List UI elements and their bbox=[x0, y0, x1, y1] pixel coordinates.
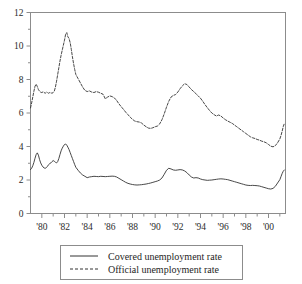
legend-label-covered: Covered unemployment rate bbox=[108, 251, 222, 262]
y-axis-tick-label: 6 bbox=[19, 108, 24, 118]
x-axis-tick-label: '00 bbox=[263, 222, 274, 232]
plot-area-border bbox=[31, 13, 286, 214]
y-axis-tick-label: 0 bbox=[19, 209, 24, 219]
x-axis-tick-label: '86 bbox=[104, 222, 115, 232]
y-axis-tick-label: 8 bbox=[19, 75, 24, 85]
x-axis-tick-label: '84 bbox=[82, 222, 93, 232]
x-axis-tick-label: '94 bbox=[195, 222, 206, 232]
y-axis-tick-label: 4 bbox=[19, 142, 24, 152]
x-axis-tick-labels: '80'82'84'86'88'90'92'94'96'98'00 bbox=[36, 222, 274, 232]
x-axis-tick-label: '80 bbox=[36, 222, 47, 232]
y-axis-tick-label: 12 bbox=[14, 8, 24, 18]
x-axis-ticks bbox=[42, 214, 280, 219]
x-axis-tick-label: '90 bbox=[150, 222, 161, 232]
legend: Covered unemployment rate Official unemp… bbox=[61, 246, 243, 280]
unemployment-rate-line-chart: 024681012 '80'82'84'86'88'90'92'94'96'98… bbox=[0, 0, 302, 284]
x-axis-tick-label: '98 bbox=[240, 222, 251, 232]
y-axis-ticks bbox=[27, 13, 31, 214]
figure-container: 024681012 '80'82'84'86'88'90'92'94'96'98… bbox=[0, 0, 302, 284]
legend-label-official: Official unemployment rate bbox=[108, 264, 219, 275]
y-axis-tick-label: 10 bbox=[14, 41, 24, 51]
y-axis-tick-label: 2 bbox=[19, 175, 24, 185]
plot-frame bbox=[31, 13, 286, 214]
x-axis-tick-label: '82 bbox=[59, 222, 70, 232]
x-axis-tick-label: '92 bbox=[172, 222, 183, 232]
x-axis-tick-label: '88 bbox=[127, 222, 138, 232]
y-axis-tick-labels: 024681012 bbox=[14, 8, 24, 219]
x-axis-tick-label: '96 bbox=[218, 222, 229, 232]
